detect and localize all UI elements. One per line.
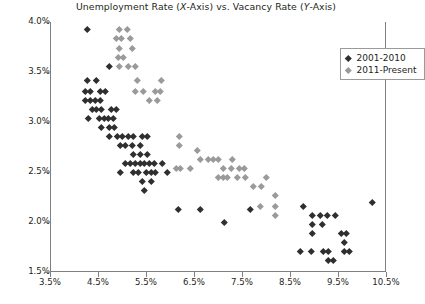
legend-item-2011-present: 2011-Present [346, 64, 417, 76]
data-point [140, 88, 146, 94]
legend-item-2001-2010: 2001-2010 [346, 52, 417, 64]
legend-label-series-1: 2011-Present [357, 65, 417, 75]
data-point [98, 124, 104, 130]
plot-area: 2001-2010 2011-Present [50, 22, 386, 272]
data-point [224, 174, 230, 180]
data-point [250, 183, 256, 189]
data-point [106, 133, 112, 139]
data-point [229, 156, 235, 162]
data-point [85, 115, 91, 121]
x-axis-tick-mark [290, 272, 291, 277]
data-point [144, 151, 150, 157]
data-point [139, 178, 145, 184]
x-axis-tick-mark [386, 272, 387, 277]
data-point [228, 165, 234, 171]
data-point [159, 160, 165, 166]
data-point [127, 35, 133, 41]
data-point [343, 230, 349, 236]
data-point [122, 142, 128, 148]
data-point [137, 142, 143, 148]
data-point [157, 88, 163, 94]
data-point [84, 77, 90, 83]
data-point [116, 45, 122, 51]
data-point [258, 183, 264, 189]
data-point [332, 212, 338, 218]
data-point [134, 77, 140, 83]
data-point [346, 248, 352, 254]
data-point [272, 203, 278, 209]
data-point [234, 174, 240, 180]
x-axis-tick-mark [194, 272, 195, 277]
data-point [114, 106, 120, 112]
data-point [151, 160, 157, 166]
data-point [176, 142, 182, 148]
x-axis-tick-mark [242, 272, 243, 277]
data-point [369, 199, 375, 205]
chart-legend: 2001-2010 2011-Present [340, 48, 425, 80]
data-point [242, 174, 248, 180]
data-point [132, 63, 138, 69]
data-point [176, 133, 182, 139]
data-point [215, 156, 221, 162]
data-point [309, 221, 315, 227]
data-point [84, 26, 90, 32]
data-point [116, 26, 122, 32]
data-point [164, 169, 170, 175]
x-axis-tick-mark [338, 272, 339, 277]
data-point [175, 206, 181, 212]
data-point [330, 257, 336, 263]
data-point [198, 156, 204, 162]
data-point [87, 88, 93, 94]
data-point [116, 63, 122, 69]
data-point [272, 192, 278, 198]
data-point [309, 212, 315, 218]
data-point [221, 219, 227, 225]
data-point [308, 248, 314, 254]
data-point [309, 230, 315, 236]
data-point [129, 45, 135, 51]
data-point [158, 77, 164, 83]
data-point [263, 174, 269, 180]
data-point [102, 88, 108, 94]
data-point [177, 165, 183, 171]
data-point [272, 212, 278, 218]
legend-marker-icon-series-1 [345, 67, 351, 73]
data-point [146, 97, 152, 103]
x-axis-tick-mark [50, 272, 51, 277]
data-point [297, 248, 303, 254]
data-point [325, 248, 331, 254]
data-points-layer [51, 22, 385, 271]
data-point [319, 221, 325, 227]
data-point [110, 115, 116, 121]
data-point [129, 142, 135, 148]
data-point [118, 35, 124, 41]
data-point [111, 124, 117, 130]
data-point [220, 165, 226, 171]
data-point [241, 165, 247, 171]
data-point [106, 63, 112, 69]
x-axis-tick-mark [146, 272, 147, 277]
data-point [154, 97, 160, 103]
data-point [324, 212, 330, 218]
data-point [341, 239, 347, 245]
data-point [97, 97, 103, 103]
data-point [130, 133, 136, 139]
data-point [117, 169, 123, 175]
data-point [187, 165, 193, 171]
legend-marker-icon-series-0 [345, 55, 351, 61]
data-point [197, 206, 203, 212]
data-point [124, 26, 130, 32]
data-point [135, 169, 141, 175]
data-point [247, 206, 253, 212]
data-point [144, 133, 150, 139]
data-point [93, 77, 99, 83]
data-point [257, 203, 263, 209]
data-point [98, 106, 104, 112]
data-point [152, 169, 158, 175]
data-point [120, 54, 126, 60]
legend-label-series-0: 2001-2010 [357, 53, 406, 63]
data-point [141, 187, 147, 193]
data-point [300, 203, 306, 209]
data-point [194, 147, 200, 153]
